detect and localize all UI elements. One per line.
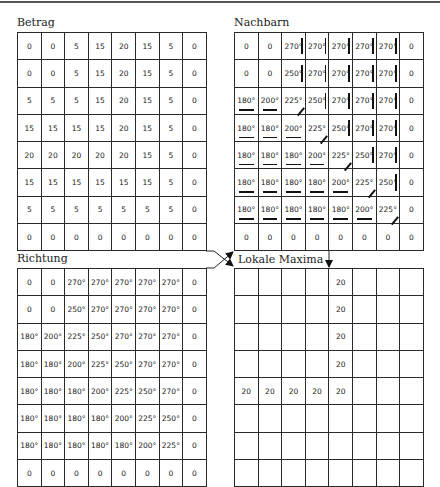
richtung-cell: 270° [159,269,183,296]
richtung-cell: 270° [112,269,136,296]
richtung-cell: 270° [88,269,112,296]
richtung-cell-value: 225° [138,414,156,423]
betrag-cell-value: 15 [119,178,129,187]
betrag-cell-value: 0 [51,233,56,242]
lokale-maxima-row [235,460,424,487]
lokale-maxima-cell-value: 20 [336,360,346,369]
betrag-cell: 15 [88,114,112,141]
betrag-cell-value: 15 [142,151,152,160]
betrag-cell: 5 [18,87,42,114]
betrag-cell: 20 [112,114,136,141]
richtung-cell: 0 [18,269,42,296]
richtung-cell: 0 [183,269,207,296]
nachbarn-cell-value: 180° [237,205,255,214]
betrag-row: 55515201550 [18,87,207,114]
lokale-maxima-cell: 20 [282,378,306,405]
richtung-cell-value: 250° [138,387,156,396]
nachbarn-cell: 270° [376,142,400,169]
richtung-cell-value: 0 [192,305,197,314]
betrag-cell: 15 [65,114,89,141]
lokale-maxima-cell-value: 20 [242,387,252,396]
betrag-cell: 15 [135,169,159,196]
betrag-cell: 5 [159,60,183,87]
nachbarn-cell: 200° [352,196,376,223]
richtung-cell: 200° [65,350,89,377]
nachbarn-cell: 0 [235,224,259,251]
lokale-maxima-cell: 20 [329,323,353,350]
nachbarn-cell: 180° [235,196,259,223]
betrag-cell: 5 [135,196,159,223]
nachbarn-cell-value: 225° [332,151,350,160]
richtung-cell: 0 [88,460,112,487]
nachbarn-cell: 180° [282,196,306,223]
nachbarn-cell-value: 0 [268,233,273,242]
betrag-cell-value: 5 [74,69,79,78]
richtung-cell-value: 270° [138,278,156,287]
lokale-maxima-cell [400,378,424,405]
betrag-row: 00515201550 [18,60,207,87]
lokale-maxima-cell [400,350,424,377]
richtung-cell: 270° [135,323,159,350]
betrag-cell: 0 [88,224,112,251]
richtung-cell: 0 [41,460,65,487]
betrag-cell: 5 [159,196,183,223]
nachbarn-cell-value: 270° [379,42,397,51]
lokale-maxima-cell [282,350,306,377]
richtung-cell-value: 250° [115,360,133,369]
nachbarn-cell: 0 [305,224,329,251]
betrag-cell: 0 [183,87,207,114]
betrag-row: 15151515151550 [18,169,207,196]
betrag-cell-value: 0 [192,124,197,133]
richtung-cell: 180° [112,432,136,459]
richtung-cell: 270° [112,323,136,350]
arrow-betrag-to-maxima [206,251,233,266]
betrag-cell-value: 5 [51,205,56,214]
nachbarn-cell: 250° [282,60,306,87]
richtung-cell: 0 [18,296,42,323]
richtung-cell-value: 0 [168,469,173,478]
betrag-cell: 0 [18,60,42,87]
nachbarn-cell-value: 250° [355,151,373,160]
betrag-cell-value: 5 [121,205,126,214]
richtung-cell-value: 0 [51,278,56,287]
nachbarn-row: 180°180°180°180°180°200°225°0 [235,196,424,223]
nachbarn-cell-value: 0 [409,178,414,187]
betrag-cell-value: 5 [145,205,150,214]
nachbarn-cell: 225° [352,169,376,196]
betrag-row: 15151515201550 [18,114,207,141]
betrag-cell-value: 0 [98,233,103,242]
nachbarn-cell: 270° [352,33,376,60]
nachbarn-cell-value: 200° [332,178,350,187]
nachbarn-cell: 180° [258,196,282,223]
lokale-maxima-cell [376,432,400,459]
betrag-cell-value: 20 [119,124,129,133]
richtung-cell-value: 200° [115,414,133,423]
betrag-cell: 0 [18,224,42,251]
richtung-cell-value: 180° [67,414,85,423]
nachbarn-cell-value: 270° [379,124,397,133]
betrag-row: 20202020201550 [18,142,207,169]
betrag-cell: 0 [183,33,207,60]
lokale-maxima-row: 20 [235,323,424,350]
nachbarn-cell-value: 270° [284,42,302,51]
nachbarn-cell-value: 250° [308,96,326,105]
nachbarn-cell-value: 250° [284,69,302,78]
nachbarn-cell-value: 270° [308,69,326,78]
betrag-cell-value: 5 [74,42,79,51]
lokale-maxima-cell: 20 [305,378,329,405]
richtung-cell-value: 225° [162,441,180,450]
betrag-cell-value: 15 [95,69,105,78]
betrag-cell-value: 5 [51,96,56,105]
betrag-cell-value: 0 [192,42,197,51]
richtung-cell: 270° [135,296,159,323]
richtung-cell: 250° [135,378,159,405]
richtung-cell: 0 [183,432,207,459]
betrag-title: Betrag [17,16,55,29]
richtung-cell: 180° [18,405,42,432]
richtung-cell: 180° [41,378,65,405]
betrag-cell: 0 [183,196,207,223]
lokale-maxima-cell [258,405,282,432]
nachbarn-cell: 225° [282,87,306,114]
betrag-cell: 5 [112,196,136,223]
richtung-cell-value: 0 [192,332,197,341]
